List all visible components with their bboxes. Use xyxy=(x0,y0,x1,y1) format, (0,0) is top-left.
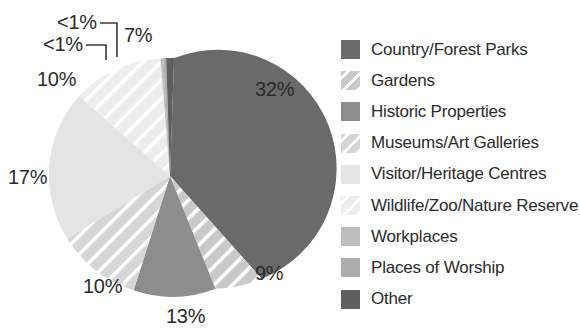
legend-label-museums-art-galleries: Museums/Art Galleries xyxy=(371,133,539,153)
legend-label-places-of-worship: Places of Worship xyxy=(371,258,504,278)
legend-swatch-gardens xyxy=(341,71,360,90)
pie-label-workplaces: <1% xyxy=(57,11,97,34)
legend-label-wildlife-zoo-nature-reserve: Wildlife/Zoo/Nature Reserve xyxy=(371,196,578,216)
legend-swatch-workplaces xyxy=(341,227,360,246)
leader-line-upper xyxy=(100,23,117,57)
legend-swatch-wildlife-zoo-nature-reserve xyxy=(341,196,360,215)
legend-swatch-other xyxy=(341,290,360,309)
pie-label-places-of-worship: <1% xyxy=(43,33,83,56)
legend-item-places-of-worship[interactable]: Places of Worship xyxy=(341,252,580,283)
pie-label-museums-art-galleries: 10% xyxy=(83,275,122,298)
legend-label-gardens: Gardens xyxy=(371,71,435,91)
leader-line-lower xyxy=(86,45,106,60)
legend-item-historic-properties[interactable]: Historic Properties xyxy=(341,96,580,127)
legend-item-gardens[interactable]: Gardens xyxy=(341,65,580,96)
legend-swatch-historic-properties xyxy=(341,102,360,121)
legend-item-workplaces[interactable]: Workplaces xyxy=(341,221,580,252)
legend-label-other: Other xyxy=(371,289,413,309)
legend-item-museums-art-galleries[interactable]: Museums/Art Galleries xyxy=(341,128,580,159)
legend-label-historic-properties: Historic Properties xyxy=(371,102,506,122)
legend-label-country-forest-parks: Country/Forest Parks xyxy=(371,40,528,60)
pie-chart-figure: 32% 9% 13% 10% 17% 10% <1% <1% 7% Countr… xyxy=(0,0,580,335)
legend-label-workplaces: Workplaces xyxy=(371,227,458,247)
pie-chart-area: 32% 9% 13% 10% 17% 10% <1% <1% 7% xyxy=(0,0,340,335)
chart-legend: Country/Forest Parks Gardens Historic Pr… xyxy=(341,34,580,315)
legend-item-wildlife-zoo-nature-reserve[interactable]: Wildlife/Zoo/Nature Reserve xyxy=(341,190,580,221)
legend-swatch-places-of-worship xyxy=(341,258,360,277)
legend-swatch-museums-art-galleries xyxy=(341,134,360,153)
pie-label-gardens: 9% xyxy=(255,262,283,285)
pie-label-visitor-heritage-centres: 17% xyxy=(8,166,47,189)
legend-item-other[interactable]: Other xyxy=(341,284,580,315)
legend-swatch-country-forest-parks xyxy=(341,40,360,59)
pie-label-wildlife-zoo-nature-reserve: 10% xyxy=(37,68,76,91)
legend-swatch-visitor-heritage-centres xyxy=(341,165,360,184)
pie-label-historic-properties: 13% xyxy=(166,305,205,328)
legend-item-visitor-heritage-centres[interactable]: Visitor/Heritage Centres xyxy=(341,159,580,190)
pie-label-other: 7% xyxy=(124,24,152,47)
pie-label-country-forest-parks: 32% xyxy=(255,78,294,101)
legend-label-visitor-heritage-centres: Visitor/Heritage Centres xyxy=(371,164,546,184)
legend-item-country-forest-parks[interactable]: Country/Forest Parks xyxy=(341,34,580,65)
